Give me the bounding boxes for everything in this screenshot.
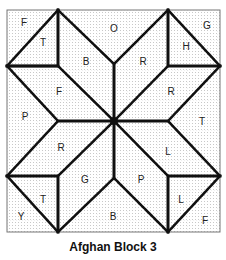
region-label: F bbox=[56, 86, 62, 97]
region-label: F bbox=[21, 17, 27, 28]
region-label: R bbox=[139, 56, 146, 67]
region-label: F bbox=[202, 215, 208, 226]
region-label: H bbox=[182, 41, 189, 52]
region-label: T bbox=[40, 194, 46, 205]
region-label: Y bbox=[18, 211, 25, 222]
region-label: B bbox=[110, 211, 117, 222]
afghan-block-chart: FTOGHBRFRPTRLGPTLYBF bbox=[0, 0, 226, 240]
center-point bbox=[110, 117, 118, 125]
region-label: P bbox=[22, 111, 29, 122]
region-label: R bbox=[167, 86, 174, 97]
region-label: R bbox=[57, 142, 64, 153]
region-label: L bbox=[165, 146, 171, 157]
region-label: O bbox=[110, 23, 118, 34]
region-label: T bbox=[40, 37, 46, 48]
region-label: L bbox=[178, 194, 184, 205]
chart-caption: Afghan Block 3 bbox=[0, 240, 226, 254]
region-label: P bbox=[138, 174, 145, 185]
region-label: B bbox=[83, 56, 90, 67]
region-label: G bbox=[81, 174, 89, 185]
region-label: T bbox=[199, 116, 205, 127]
region-label: G bbox=[203, 20, 211, 31]
